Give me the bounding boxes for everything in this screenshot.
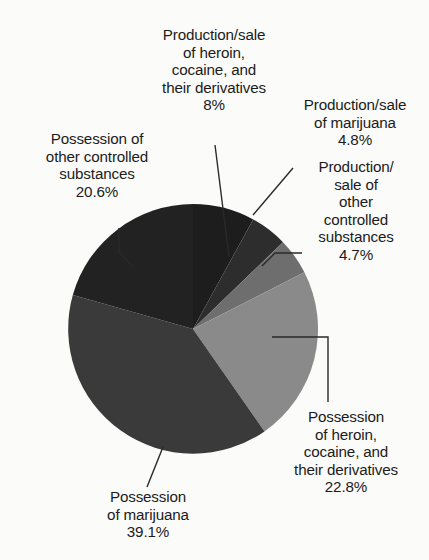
pie-chart-figure: Production/sale of heroin, cocaine, and … — [0, 0, 429, 560]
slice-label-production-sale-other-controlled: Production/ sale of other controlled sub… — [290, 158, 422, 263]
slice-label-production-sale-heroin-cocaine: Production/sale of heroin, cocaine, and … — [134, 26, 294, 114]
leader-line-production-marijuana — [253, 168, 293, 215]
slice-label-possession-other-controlled: Possession of other controlled substance… — [8, 130, 186, 200]
leader-line-possession-marijuana — [147, 447, 163, 487]
slice-label-production-sale-marijuana: Production/sale of marijuana 4.8% — [283, 96, 427, 149]
slice-label-possession-heroin-cocaine: Possession of heroin, cocaine, and their… — [266, 408, 426, 496]
slice-label-possession-marijuana: Possession of marijuana 39.1% — [66, 488, 230, 541]
